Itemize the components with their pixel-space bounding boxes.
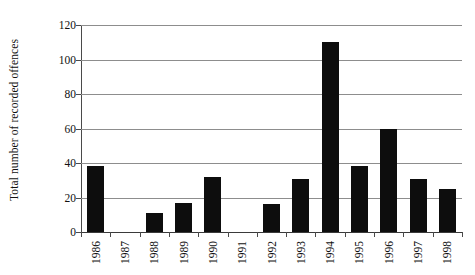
bar-slot xyxy=(140,25,169,232)
x-axis-tick-label: 1997 xyxy=(412,241,424,264)
x-axis-tick-label: 1994 xyxy=(324,241,336,264)
x-axis-tick-mark xyxy=(403,232,404,237)
bar-slot xyxy=(169,25,198,232)
x-axis-tick-label: 1991 xyxy=(236,241,248,264)
x-label-slot: 1998 xyxy=(433,239,462,275)
y-axis-tick-label: 60 xyxy=(36,123,76,135)
bar xyxy=(263,204,280,232)
x-axis-tick-mark xyxy=(462,232,463,237)
x-axis-tick-label: 1992 xyxy=(266,241,278,264)
x-axis-tick-mark xyxy=(169,232,170,237)
bar-slot xyxy=(198,25,227,232)
x-label-slot: 1986 xyxy=(81,239,110,275)
x-axis-tick-mark xyxy=(81,232,82,237)
x-axis-tick-mark xyxy=(433,232,434,237)
y-axis-title-text: Total number of recorded offences xyxy=(8,39,20,201)
bar-slot xyxy=(81,25,110,232)
bar xyxy=(175,203,192,232)
y-axis-title: Total number of recorded offences xyxy=(0,0,28,240)
x-axis-tick-label: 1998 xyxy=(441,241,453,264)
x-axis-tick-label: 1988 xyxy=(148,241,160,264)
bar xyxy=(322,42,339,232)
x-label-slot: 1991 xyxy=(228,239,257,275)
y-axis-tick-mark xyxy=(76,232,81,233)
bars-layer xyxy=(81,25,462,232)
y-axis-tick-mark xyxy=(76,129,81,130)
x-axis-tick-label: 1989 xyxy=(178,241,190,264)
bar-slot xyxy=(403,25,432,232)
plot-area xyxy=(81,25,462,232)
x-axis-tick-label: 1993 xyxy=(295,241,307,264)
x-label-slot: 1996 xyxy=(374,239,403,275)
x-axis-tick-mark xyxy=(374,232,375,237)
x-axis-tick-mark xyxy=(345,232,346,237)
bar xyxy=(292,179,309,232)
x-axis-tick-mark xyxy=(257,232,258,237)
y-axis-tick-label: 80 xyxy=(36,88,76,100)
x-axis-tick-mark xyxy=(198,232,199,237)
bar-slot xyxy=(286,25,315,232)
bar xyxy=(146,213,163,232)
y-axis-tick-labels: 020406080100120 xyxy=(30,25,76,232)
bar xyxy=(87,166,104,232)
y-axis-tick-mark xyxy=(76,163,81,164)
x-label-slot: 1994 xyxy=(316,239,345,275)
x-label-slot: 1988 xyxy=(140,239,169,275)
x-label-slot: 1989 xyxy=(169,239,198,275)
x-label-slot: 1995 xyxy=(345,239,374,275)
x-axis-tick-mark xyxy=(140,232,141,237)
bar xyxy=(439,189,456,232)
y-axis-tick-mark xyxy=(76,60,81,61)
x-axis-tick-mark xyxy=(228,232,229,237)
y-axis-tick-mark xyxy=(76,25,81,26)
x-axis-tick-label: 1990 xyxy=(207,241,219,264)
y-axis-tick-label: 100 xyxy=(36,54,76,66)
bar-slot xyxy=(374,25,403,232)
bar xyxy=(351,166,368,232)
x-axis-tick-labels: 1986198719881989199019911992199319941995… xyxy=(81,239,462,275)
x-label-slot: 1997 xyxy=(403,239,432,275)
x-axis-tick-mark xyxy=(110,232,111,237)
bar xyxy=(410,179,427,232)
bar-slot xyxy=(345,25,374,232)
x-axis-tick-label: 1986 xyxy=(90,241,102,264)
bar-slot xyxy=(228,25,257,232)
bar xyxy=(380,129,397,233)
x-axis-tick-label: 1996 xyxy=(383,241,395,264)
bar-slot xyxy=(433,25,462,232)
y-axis-tick-mark xyxy=(76,198,81,199)
x-axis-tick-mark xyxy=(286,232,287,237)
x-axis-tick-label: 1995 xyxy=(353,241,365,264)
y-axis-tick-label: 120 xyxy=(36,19,76,31)
bar-slot xyxy=(257,25,286,232)
x-axis-tick-mark xyxy=(315,232,316,237)
x-label-slot: 1993 xyxy=(286,239,315,275)
x-axis-tick-label: 1987 xyxy=(119,241,131,264)
bar-slot xyxy=(316,25,345,232)
y-axis-tick-mark xyxy=(76,94,81,95)
y-axis-tick-label: 40 xyxy=(36,157,76,169)
bar-chart: Total number of recorded offences 020406… xyxy=(0,0,475,275)
bar xyxy=(204,177,221,232)
y-axis-tick-label: 0 xyxy=(36,226,76,238)
y-axis-tick-label: 20 xyxy=(36,192,76,204)
x-label-slot: 1992 xyxy=(257,239,286,275)
x-label-slot: 1987 xyxy=(110,239,139,275)
x-label-slot: 1990 xyxy=(198,239,227,275)
x-axis-ticks xyxy=(81,232,462,238)
bar-slot xyxy=(110,25,139,232)
